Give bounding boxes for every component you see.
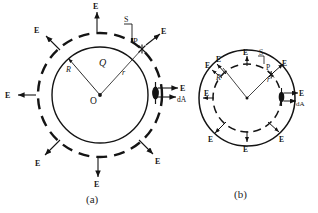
field-label-lower-left-a: E (35, 159, 40, 168)
field-label-upper-left-a: E (34, 26, 39, 35)
field-label-lower-right-b: E (279, 135, 284, 144)
field-label-bottom-a: E (94, 180, 99, 189)
field-arrow-lower-left-b (215, 122, 226, 133)
field-label-dA-b: E (299, 89, 304, 98)
field-arrow-lower-left-a (45, 140, 60, 155)
charge-label-a: Q (99, 57, 107, 68)
area-element-label-b: dA (296, 100, 305, 108)
surface-S-leader-a (124, 24, 132, 38)
radius-R-line-b (223, 68, 247, 98)
radius-R-line-a (69, 59, 101, 96)
physics-figure: E E E E E E E E dA S P R r Q O (a) (0, 0, 318, 213)
surface-S-leader-b (258, 56, 264, 64)
point-P-marker-a (139, 45, 146, 54)
area-element-patch-b (279, 88, 285, 106)
caption-b: (b) (234, 188, 247, 201)
panel-a: E E E E E E E E dA S P R r Q O (a) (5, 2, 187, 206)
point-label-a: P (133, 36, 138, 46)
surface-label-b: S (259, 48, 263, 57)
figure-svg: E E E E E E E E dA S P R r Q O (a) (0, 0, 318, 213)
center-label-a: O (90, 96, 97, 106)
caption-a: (a) (86, 193, 99, 206)
inner-radius-label-b: r (267, 75, 270, 84)
inner-radius-label-a: R (65, 65, 71, 74)
field-label-top-a: E (93, 2, 98, 11)
outer-radius-label-a: r (122, 68, 126, 77)
field-label-upper-left2-b: E (205, 61, 210, 70)
field-label-left-a: E (5, 91, 10, 100)
field-arrow-lower-right-a (139, 140, 153, 154)
field-label-upper-left-b: E (216, 55, 221, 64)
field-label-at-P-b: E (282, 59, 287, 68)
area-element-patch-a (152, 82, 159, 104)
field-label-left-b: E (204, 89, 209, 98)
field-label-at-P-a: E (161, 27, 166, 36)
field-label-lower-left-b: E (208, 135, 213, 144)
field-arrow-lower-right-b (268, 122, 279, 132)
field-arrow-upper-left-a (46, 36, 60, 50)
field-label-bottom-b: E (243, 145, 248, 154)
field-label-dA-a: E (180, 84, 185, 93)
radius-r-line-a (100, 49, 142, 95)
field-label-top-b: E (243, 48, 248, 57)
surface-label-a: S (124, 15, 128, 24)
panel-b: E E E E E E E E E dA S P R r (b) (199, 48, 305, 201)
field-arrow-at-P-a (146, 34, 160, 45)
field-label-lower-right-a: E (155, 157, 160, 166)
area-element-label-a: dA (177, 95, 187, 104)
point-label-b: P (266, 63, 270, 72)
outer-radius-label-b: R (215, 73, 221, 82)
